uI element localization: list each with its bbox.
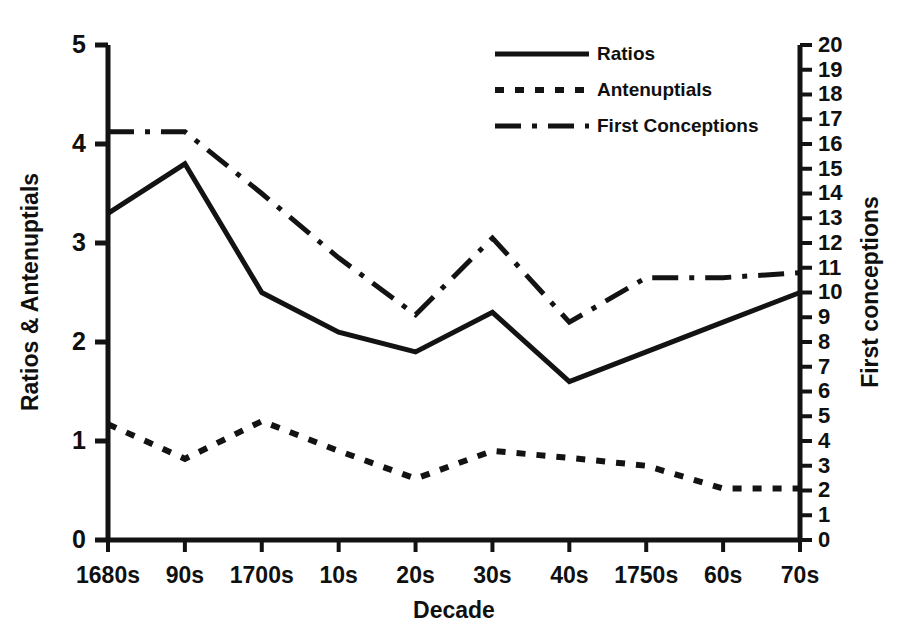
chart-page: 012345 01234567891011121314151617181920 … [0,0,911,631]
x-axis-tick-label: 1700s [230,562,294,588]
y-axis-right-tick-label: 4 [818,428,831,453]
y-axis-right-tick-label: 11 [818,255,841,280]
y-axis-right-tick-label: 19 [818,57,842,82]
y-axis-right-tick-label: 14 [818,180,843,205]
x-axis-tick-label: 90s [166,562,204,588]
y-axis-left-tick-label: 1 [72,426,86,454]
y-axis-right-tick-label: 13 [818,205,842,230]
y-axis-right-tick-label: 12 [818,230,842,255]
line-chart: 012345 01234567891011121314151617181920 … [0,0,911,631]
x-axis-tick-label: 70s [781,562,819,588]
y-axis-left-tick-label: 4 [72,129,86,157]
y-axis-right-tick-label: 17 [818,106,842,131]
y-axis-right-tick-label: 5 [818,403,830,428]
series-group [108,132,800,489]
y-axis-right-tick-label: 8 [818,329,830,354]
x-axis-tick-label: 60s [704,562,742,588]
legend-label-ratios: Ratios [597,43,655,64]
x-axis-tick-label: 30s [473,562,511,588]
y-axis-left-title: Ratios & Antenuptials [17,173,43,411]
x-axis-tick-label: 40s [550,562,588,588]
y-axis-right-tick-label: 2 [818,477,830,502]
series-line-first-conceptions [108,132,800,323]
y-axis-left-ticks: 012345 [72,30,108,553]
y-axis-right-tick-label: 6 [818,378,830,403]
legend-label-antenuptials: Antenuptials [597,79,712,100]
y-axis-right-tick-label: 20 [818,32,842,57]
y-axis-left-tick-label: 0 [72,525,86,553]
y-axis-right-tick-label: 7 [818,354,830,379]
series-line-ratios [108,164,800,382]
y-axis-right-tick-label: 15 [818,156,842,181]
y-axis-right-tick-label: 10 [818,279,842,304]
x-axis-tick-label: 10s [319,562,357,588]
legend: RatiosAntenuptialsFirst Conceptions [495,43,759,136]
x-axis-tick-label: 20s [396,562,434,588]
y-axis-left-tick-label: 5 [72,30,86,58]
y-axis-left-tick-label: 2 [72,327,86,355]
y-axis-right-tick-label: 9 [818,304,830,329]
y-axis-right-tick-label: 16 [818,131,842,156]
y-axis-right-tick-label: 18 [818,81,842,106]
y-axis-right-tick-label: 1 [818,502,830,527]
x-axis-ticks: 1680s90s1700s10s20s30s40s1750s60s70s [76,540,819,588]
y-axis-left-tick-label: 3 [72,228,86,256]
series-line-antenuptials [108,421,800,488]
y-axis-right-tick-label: 3 [818,453,830,478]
x-axis-tick-label: 1680s [76,562,140,588]
x-axis-title: Decade [413,597,495,623]
y-axis-right-ticks: 01234567891011121314151617181920 [800,32,843,552]
legend-label-first-conceptions: First Conceptions [597,115,759,136]
y-axis-right-tick-label: 0 [818,527,830,552]
y-axis-right-title: First conceptions [857,196,883,388]
x-axis-tick-label: 1750s [614,562,678,588]
